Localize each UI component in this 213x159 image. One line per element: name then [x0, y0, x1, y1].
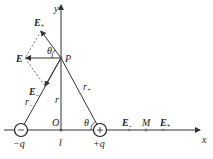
point-m-label: M [141, 117, 151, 128]
theta-top-label: θ [47, 45, 52, 56]
positive-charge-label: +q [93, 138, 105, 149]
dashed-line-top [25, 31, 41, 58]
theta-bottom-label: θ [84, 117, 89, 128]
r-plus-line [61, 58, 100, 130]
e-minus-vector [45, 58, 61, 86]
x-axis-label: x [201, 134, 207, 145]
dashed-line-bottom [25, 58, 45, 86]
e-plus-axis-dot [162, 129, 165, 132]
origin-dot [60, 129, 63, 132]
point-p [60, 57, 63, 60]
e-plus-top-label: E+ [33, 17, 45, 29]
point-m [145, 129, 148, 132]
y-axis-label: y [53, 3, 59, 14]
dipole-field-diagram: y x O P M E+ E E− E− E+ θ θ r r− r+ l −q… [0, 0, 213, 159]
e-label: E [15, 53, 23, 64]
theta-arc-top [52, 50, 55, 58]
e-minus-lower-label: E− [28, 86, 40, 98]
negative-charge-label: −q [13, 138, 25, 149]
origin-label: O [52, 117, 59, 128]
e-minus-axis-dot [128, 129, 131, 132]
point-p-label: P [64, 53, 71, 64]
l-label: l [59, 137, 62, 148]
e-plus-axis-label: E+ [159, 117, 171, 129]
r-plus-label: r+ [83, 81, 91, 93]
e-minus-axis-label: E− [121, 117, 133, 129]
r-minus-label: r− [25, 96, 33, 108]
r-label: r [55, 94, 59, 105]
